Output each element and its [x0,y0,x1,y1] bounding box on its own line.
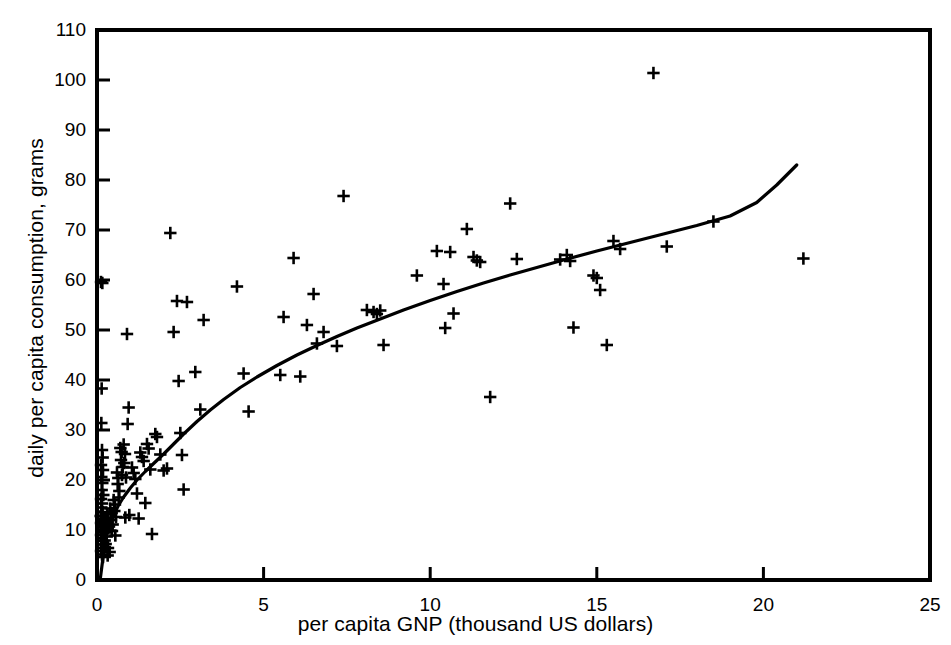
data-point-marker [122,401,134,413]
data-point-marker [237,367,249,379]
x-tick-label: 10 [400,594,460,616]
y-tick-label: 10 [40,519,86,541]
data-point-marker [151,431,163,443]
x-tick-label: 25 [900,594,951,616]
data-point-marker [437,278,449,290]
data-point-marker [121,328,133,340]
data-point-marker [197,314,209,326]
data-point-marker [294,370,306,382]
data-point-marker [431,245,443,257]
data-point-marker [177,483,189,495]
data-point-marker [307,288,319,300]
data-point-marker [172,375,184,387]
y-tick-label: 80 [40,169,86,191]
data-point-marker [129,473,141,485]
data-point-marker [121,418,133,430]
data-point-marker [461,223,473,235]
data-point-marker [131,487,143,499]
y-tick-label: 90 [40,119,86,141]
data-point-marker [164,227,176,239]
y-tick-label: 110 [40,19,86,41]
data-point-marker [317,326,329,338]
data-point-marker [447,307,459,319]
data-point-marker [594,284,606,296]
data-point-marker [337,190,349,202]
data-point-marker [144,463,156,475]
plot-frame [97,30,930,580]
data-point-marker [167,326,179,338]
data-point-marker [174,427,186,439]
plot-border [97,30,930,580]
y-tick-label: 20 [40,469,86,491]
data-point-marker [139,497,151,509]
data-point-marker [797,252,809,264]
data-point-markers [94,67,809,563]
data-point-marker [661,240,673,252]
data-point-marker [189,366,201,378]
data-point-marker [411,269,423,281]
data-point-marker [181,296,193,308]
data-point-marker [146,528,158,540]
data-point-marker [154,448,166,460]
fitted-trend-line [100,165,796,579]
y-tick-label: 50 [40,319,86,341]
y-tick-label: 60 [40,269,86,291]
data-point-marker [274,369,286,381]
data-point-marker [242,405,254,417]
data-point-marker [176,449,188,461]
y-tick-label: 100 [40,69,86,91]
x-tick-label: 15 [567,594,627,616]
y-tick-label: 70 [40,219,86,241]
data-point-marker [484,391,496,403]
data-point-marker [149,428,161,440]
data-point-marker [504,197,516,209]
x-tick-label: 20 [733,594,793,616]
data-point-marker [567,321,579,333]
data-point-marker [707,215,719,227]
data-point-marker [439,322,451,334]
y-tick-label: 30 [40,419,86,441]
scatter-chart-figure: per capita GNP (thousand US dollars) dai… [0,0,951,645]
x-tick-label: 0 [67,594,127,616]
data-point-marker [377,339,389,351]
data-point-marker [444,246,456,258]
plot-canvas [0,0,951,645]
y-tick-label: 0 [40,569,86,591]
x-axis-title: per capita GNP (thousand US dollars) [0,612,951,636]
data-point-marker [301,319,313,331]
data-point-marker [647,67,659,79]
data-point-marker [511,253,523,265]
data-point-marker [287,252,299,264]
y-axis-title: daily per capita consumption, grams [24,28,48,588]
trend-curve-path [100,165,796,579]
y-tick-label: 40 [40,369,86,391]
data-point-marker [277,311,289,323]
x-tick-label: 5 [234,594,294,616]
data-point-marker [331,340,343,352]
data-point-marker [231,280,243,292]
data-point-marker [601,339,613,351]
